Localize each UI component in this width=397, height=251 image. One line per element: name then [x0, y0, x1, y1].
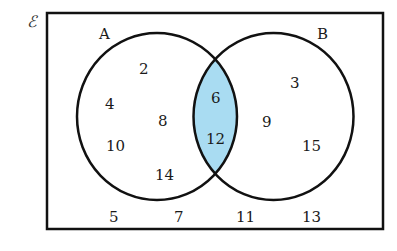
- element-a-only: 10: [106, 137, 125, 155]
- element-a-only: 4: [105, 95, 115, 113]
- element-intersection: 6: [211, 89, 221, 107]
- element-intersection: 12: [206, 130, 225, 148]
- set-b-label: B: [317, 25, 328, 43]
- element-a-only: 14: [155, 166, 174, 184]
- element-outside: 7: [174, 208, 184, 226]
- element-b-only: 3: [290, 74, 300, 92]
- element-b-only: 15: [302, 137, 321, 155]
- element-outside: 11: [236, 208, 255, 226]
- element-outside: 5: [109, 208, 119, 226]
- set-a-label: A: [98, 25, 110, 43]
- venn-diagram: ℰ A B 2 4 8 10 14 6 12 3 9 15 5 7 11 13: [0, 0, 397, 251]
- element-outside: 13: [302, 208, 321, 226]
- element-a-only: 8: [158, 112, 168, 130]
- element-a-only: 2: [139, 60, 149, 78]
- universal-set-symbol: ℰ: [27, 12, 39, 31]
- element-b-only: 9: [262, 113, 272, 131]
